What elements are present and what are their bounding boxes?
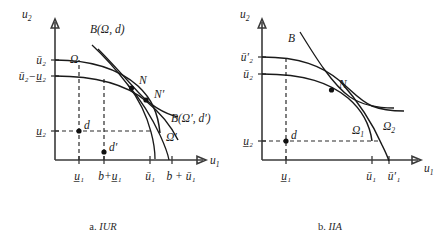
panel-a-xtick-label-1: b+u̲₁ bbox=[98, 170, 121, 182]
panel-a-xtick-label-2: ū₁ bbox=[145, 170, 155, 182]
panel-b-ytick-label-1: ū₂ bbox=[243, 68, 253, 80]
panel-b-group: u2 u1 ū′₂ ū₂ u̲₂ u̲₁ ū₁ ū′₁ bbox=[240, 8, 434, 232]
figure-root: u2 u1 ū₂ ū₂−u̲₂ u̲₂ u̲₁ b+u̲₁ ū₁ b + ū₁ bbox=[0, 0, 444, 251]
panel-b-omega1-label: Ω1 bbox=[352, 124, 364, 139]
panel-a-xtick-label-0: u̲₁ bbox=[73, 170, 84, 182]
panel-a-xtick-label-3: b + ū₁ bbox=[166, 170, 195, 182]
panel-a-x-axis bbox=[55, 156, 206, 164]
panel-b-xtick-label-1: ū₁ bbox=[366, 170, 376, 182]
panel-a-omega-frontier bbox=[55, 60, 160, 133]
panel-b-point-d-label: d bbox=[291, 129, 297, 141]
panel-b-omega2-frontier bbox=[262, 57, 404, 111]
panel-a-point-d-dot bbox=[76, 128, 81, 133]
panel-b-point-N-label: N bbox=[338, 78, 348, 90]
panel-a-group: u2 u1 ū₂ ū₂−u̲₂ u̲₂ u̲₁ b+u̲₁ ū₁ b + ū₁ bbox=[19, 8, 220, 232]
panel-b-point-d-dot bbox=[283, 138, 288, 143]
panel-b-bargain-set-label: B bbox=[288, 32, 295, 44]
panel-a-x-axis-label: u1 bbox=[210, 154, 220, 169]
panel-a-bargain-set-label: B(Ω, d) bbox=[90, 23, 125, 36]
panel-b-x-axis-label: u1 bbox=[424, 162, 434, 177]
panel-a-point-d-label: d bbox=[84, 119, 90, 131]
panel-a-point-N-dot bbox=[129, 85, 134, 90]
panel-b-y-axis-label: u2 bbox=[240, 8, 250, 23]
panel-b-y-axis bbox=[258, 19, 266, 160]
panel-a-point-Nprime-dot bbox=[143, 97, 148, 102]
panel-a-point-Nprime-label: N′ bbox=[153, 88, 165, 100]
bargaining-axioms-diagram: u2 u1 ū₂ ū₂−u̲₂ u̲₂ u̲₁ b+u̲₁ ū₁ b + ū₁ bbox=[0, 0, 444, 251]
panel-b-xtick-label-0: u̲₁ bbox=[280, 170, 291, 182]
panel-a-bargain-set-prime-label: B(Ω′, d′) bbox=[171, 112, 211, 125]
panel-a-point-N-label: N bbox=[138, 74, 148, 86]
panel-a-ytick-label-2: u̲₂ bbox=[35, 125, 46, 137]
panel-a-omega-label: Ω bbox=[70, 53, 78, 65]
panel-a-y-axis bbox=[51, 19, 59, 160]
panel-a-y-axis-label: u2 bbox=[22, 8, 32, 23]
panel-a-ytick-label-1: ū₂−u̲₂ bbox=[19, 70, 46, 82]
panel-a-point-dprime-dot bbox=[101, 149, 106, 154]
panel-b-caption: b. IIA bbox=[318, 221, 342, 232]
panel-b-ytick-label-0: ū′₂ bbox=[241, 51, 253, 63]
panel-a-omega-prime-label: Ω′ bbox=[166, 131, 177, 143]
panel-a-caption: a. IUR bbox=[89, 221, 117, 232]
panel-b-omega2-branch bbox=[340, 81, 389, 161]
panel-b-point-N-dot bbox=[329, 87, 334, 92]
panel-b-xtick-label-2: ū′₁ bbox=[388, 170, 400, 182]
panel-b-ytick-label-2: u̲₂ bbox=[242, 135, 253, 147]
panel-a-ytick-label-0: ū₂ bbox=[36, 54, 46, 66]
panel-b-omega2-label: Ω2 bbox=[383, 120, 395, 135]
panel-a-point-dprime-label: d′ bbox=[109, 141, 118, 153]
